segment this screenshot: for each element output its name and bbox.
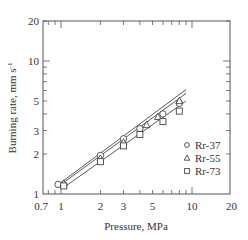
y-axis-title: Burning rate, mm s-1 (6, 62, 18, 153)
x-tick-label: 20 (226, 200, 238, 212)
x-axis-title: Pressure, MPa (104, 220, 168, 232)
y-tick-label: 5 (34, 95, 40, 107)
y-axis-title-group: Burning rate, mm s-1 (6, 62, 18, 153)
legend-triangle-icon (184, 155, 190, 160)
y-axis-title-text: Burning rate, mm s (6, 68, 18, 153)
legend-label: Rr-73 (195, 165, 221, 177)
y-tick-label: 2 (34, 148, 40, 160)
circle-marker-icon (137, 125, 143, 131)
triangle-marker-icon (143, 121, 150, 127)
x-tick-label: 0.7 (34, 200, 48, 212)
circle-marker-icon (160, 111, 166, 117)
y-tick-label: 10 (28, 55, 40, 67)
y-axis-title-superscript: -1 (6, 62, 14, 68)
circle-marker-icon (55, 181, 61, 187)
square-marker-icon (121, 143, 127, 149)
square-marker-icon (97, 159, 103, 165)
y-tick-label: 3 (34, 125, 40, 137)
x-tick-label: 10 (187, 200, 199, 212)
legend-label: Rr-37 (195, 139, 221, 151)
x-tick-label: 2 (98, 200, 104, 212)
x-tick-label: 3 (121, 200, 127, 212)
x-tick-label: 5 (150, 200, 156, 212)
y-tick-label: 20 (28, 15, 40, 27)
x-tick-label: 1 (58, 200, 64, 212)
legend: Rr-37Rr-55Rr-73 (184, 139, 221, 177)
burning-rate-chart: 0.712351020 12351020 Rr-37Rr-55Rr-73 Pre… (0, 0, 248, 240)
legend-circle-icon (185, 143, 190, 148)
square-marker-icon (61, 183, 67, 189)
y-tick-label: 1 (34, 188, 40, 200)
square-marker-icon (137, 132, 143, 138)
square-marker-icon (176, 108, 182, 114)
legend-square-icon (185, 169, 190, 174)
square-marker-icon (160, 119, 166, 125)
legend-label: Rr-55 (195, 152, 221, 164)
